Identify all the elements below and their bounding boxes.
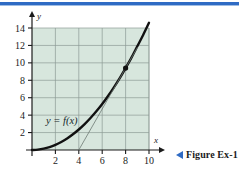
tangency-point: [123, 65, 128, 70]
figure-caption: Figure Ex-1: [176, 149, 238, 160]
y-tick-label: 8: [20, 75, 25, 86]
y-tick-label: 2: [20, 127, 25, 138]
plot-background: [32, 28, 149, 150]
x-tick-label: 2: [53, 155, 58, 166]
y-tick-label: 6: [20, 92, 25, 103]
curve-label: y = f(x): [45, 115, 78, 127]
y-tick-label: 10: [15, 57, 25, 68]
figure-plot-area: 2468102468101214 y = f(x) xy: [0, 8, 175, 179]
figure-page: 2468102468101214 y = f(x) xy Figure Ex-1: [0, 0, 239, 179]
x-tick-label: 8: [123, 155, 128, 166]
y-tick-label: 4: [20, 110, 25, 121]
data-points-group: [123, 65, 128, 70]
x-tick-label: 4: [76, 155, 81, 166]
annotations-group: y = f(x): [45, 115, 78, 127]
y-axis-arrow-icon: [29, 11, 35, 17]
x-tick-label: 6: [100, 155, 105, 166]
y-tick-label: 12: [15, 40, 25, 51]
top-rule-shadow: [0, 5, 239, 6]
plot-background-group: [32, 28, 149, 150]
function-graph: 2468102468101214 y = f(x) xy: [0, 8, 175, 179]
y-axis-label: y: [36, 11, 41, 21]
left-triangle-icon: [176, 151, 183, 159]
y-tick-label: 14: [15, 23, 25, 34]
x-axis-label: x: [153, 135, 158, 145]
x-axis-arrow-icon: [159, 147, 165, 153]
figure-caption-text: Figure Ex-1: [186, 149, 238, 160]
x-tick-label: 10: [144, 155, 154, 166]
